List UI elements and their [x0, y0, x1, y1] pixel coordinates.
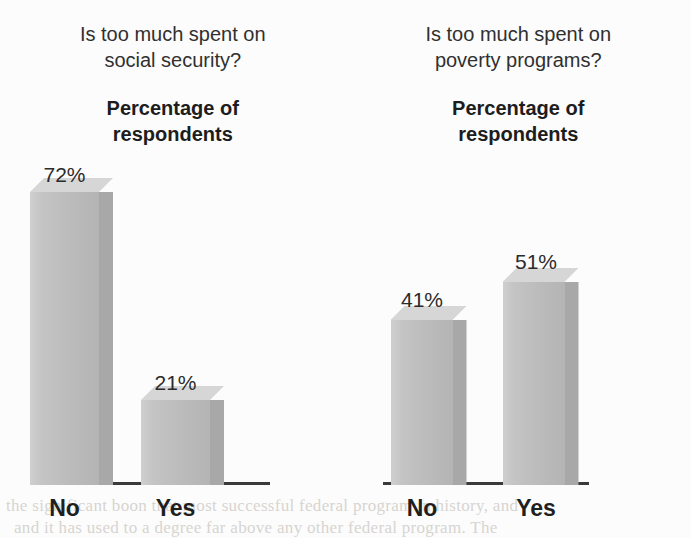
- category-label-no: No: [380, 495, 465, 522]
- bar-side-face: [99, 192, 113, 485]
- bar-front-face: [141, 400, 210, 485]
- bar-yes: [503, 282, 565, 485]
- plot-area-poverty-programs: 41% 51% No Yes: [346, 0, 691, 532]
- bar-front-face: [30, 192, 99, 485]
- bar-front-face: [503, 282, 565, 485]
- bar-no: [391, 320, 453, 485]
- category-label-yes: Yes: [133, 495, 218, 522]
- bar-value-no: 72%: [22, 163, 107, 187]
- plot-area-social-security: 72% 21% No Yes: [0, 0, 346, 532]
- chart-panel-social-security: Is too much spent on social security? Pe…: [0, 0, 346, 532]
- bar-yes: [141, 400, 210, 485]
- bar-value-yes: 21%: [133, 371, 218, 395]
- bar-side-face: [453, 320, 467, 485]
- bar-side-face: [565, 282, 579, 485]
- bar-no: [30, 192, 99, 485]
- bar-side-face: [210, 400, 224, 485]
- bar-value-no: 41%: [380, 288, 465, 312]
- chart-panel-poverty-programs: Is too much spent on poverty programs? P…: [346, 0, 691, 532]
- bar-front-face: [391, 320, 453, 485]
- category-label-no: No: [22, 495, 107, 522]
- category-label-yes: Yes: [494, 495, 579, 522]
- bar-value-yes: 51%: [494, 250, 579, 274]
